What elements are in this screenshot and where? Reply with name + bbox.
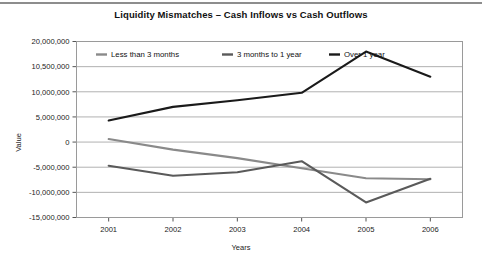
- x-axis-tick-label: 2001: [100, 225, 117, 234]
- chart-container: Liquidity Mismatches – Cash Inflows vs C…: [0, 0, 482, 269]
- y-axis-tick-label: 10,500,000: [31, 62, 69, 71]
- x-axis-tick-label: 2002: [165, 225, 182, 234]
- x-axis-tick-labels: 200120022003200420052006: [100, 225, 439, 234]
- y-axis-tick-labels: 20,000,00010,500,00010,000,0005,000,0000…: [29, 37, 70, 222]
- legend-label: 3 months to 1 year: [237, 50, 302, 59]
- data-series: [109, 52, 431, 203]
- legend-label: Over 1 year: [344, 50, 385, 59]
- y-axis-tick-label: 10,000,000: [31, 88, 69, 97]
- series-line: [109, 52, 431, 121]
- y-axis-tick-label: 0: [65, 138, 69, 147]
- y-axis-tick-label: 5,000,000: [36, 113, 70, 122]
- plot-area: 20,000,00010,500,00010,000,0005,000,0000…: [0, 0, 482, 269]
- chart-legend: Less than 3 months3 months to 1 yearOver…: [96, 50, 385, 59]
- legend-label: Less than 3 months: [111, 50, 179, 59]
- y-axis-tick-label: -10,000,000: [29, 188, 70, 197]
- x-axis-tick-label: 2003: [229, 225, 246, 234]
- y-axis-tick-label: 20,000,000: [31, 37, 69, 46]
- gridlines: [73, 42, 463, 218]
- y-axis-tick-label: -15,000,000: [29, 213, 70, 222]
- x-axis-tick-label: 2006: [422, 225, 439, 234]
- x-axis-tick-label: 2005: [358, 225, 375, 234]
- plot-frame: [77, 42, 463, 218]
- x-axis-ticks: [109, 218, 431, 222]
- x-axis-tick-label: 2004: [293, 225, 310, 234]
- y-axis-tick-label: -5,000,000: [33, 163, 69, 172]
